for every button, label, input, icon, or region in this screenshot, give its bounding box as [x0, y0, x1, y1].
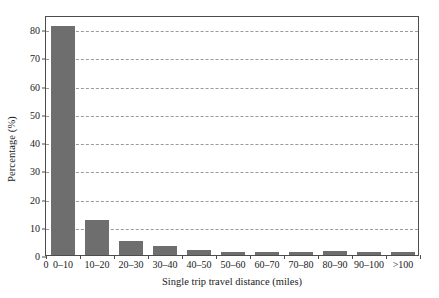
- x-tick-mark: [182, 255, 183, 259]
- x-tick-mark: [284, 255, 285, 259]
- y-tick-label: 80: [30, 26, 40, 36]
- bar-0-10: [51, 26, 75, 255]
- bar-10-20: [85, 220, 109, 255]
- y-tick-label: 70: [30, 54, 40, 64]
- y-tick-label: 30: [30, 167, 40, 177]
- x-tick-mark: [250, 255, 251, 259]
- x-tick-mark: [352, 255, 353, 259]
- bars-group: [46, 17, 418, 255]
- x-tick-mark: [148, 255, 149, 259]
- x-tick-mark: [386, 255, 387, 259]
- bar-chart-figure: Percentage (%) 01020304050607080 00–1010…: [0, 0, 439, 298]
- x-tick-label: 50–60: [221, 260, 246, 270]
- bar-80-90: [323, 251, 347, 255]
- x-tick-mark: [420, 255, 421, 259]
- x-tick-label: >100: [393, 260, 414, 270]
- y-tick-label: 60: [30, 83, 40, 93]
- x-tick-mark: [80, 255, 81, 259]
- x-tick-mark: [114, 255, 115, 259]
- x-tick-label: 10–20: [85, 260, 110, 270]
- x-tick-label: 40–50: [187, 260, 212, 270]
- bar-50-60: [221, 252, 245, 255]
- bar-100: [391, 252, 415, 255]
- bar-30-40: [153, 246, 177, 255]
- x-tick-label: 20–30: [119, 260, 144, 270]
- x-tick-label: 30–40: [153, 260, 178, 270]
- x-tick-label-origin: 0: [44, 260, 49, 270]
- x-tick-label: 80–90: [323, 260, 348, 270]
- y-tick-label: 10: [30, 224, 40, 234]
- x-tick-label: 90–100: [354, 260, 384, 270]
- x-tick-mark: [318, 255, 319, 259]
- y-tick-label: 50: [30, 111, 40, 121]
- x-tick-label: 60–70: [255, 260, 280, 270]
- x-axis-title: Single trip travel distance (miles): [45, 276, 419, 287]
- y-tick-label: 40: [30, 139, 40, 149]
- x-tick-mark: [216, 255, 217, 259]
- y-axis-title: Percentage (%): [0, 0, 22, 298]
- y-tick-label: 0: [35, 252, 40, 262]
- bar-40-50: [187, 250, 211, 255]
- plot-area: 01020304050607080 00–1010–2020–3030–4040…: [45, 16, 419, 256]
- bar-60-70: [255, 252, 279, 255]
- x-tick-label: 70–80: [289, 260, 314, 270]
- y-tick-label: 20: [30, 196, 40, 206]
- x-tick-label: 0–10: [53, 260, 73, 270]
- bar-20-30: [119, 241, 143, 255]
- bar-70-80: [289, 252, 313, 255]
- bar-90-100: [357, 252, 381, 255]
